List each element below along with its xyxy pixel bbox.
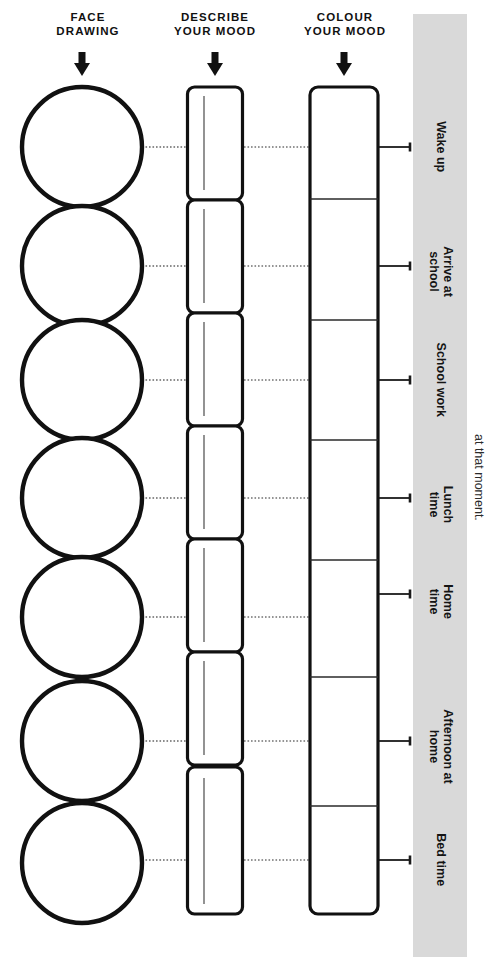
header-describe-your-mood: DESCRIBE YOUR MOOD [152,10,278,38]
colour-mood-column[interactable] [310,87,378,914]
face-circle-row-4[interactable] [22,438,142,558]
mood-box-row-3[interactable] [188,313,243,426]
worksheet-page: FACE DRAWING DESCRIBE YOUR MOOD COLOUR Y… [0,0,498,957]
face-circle-row-7[interactable] [22,803,142,923]
row-tick-marks [379,143,410,865]
arrow-colour-mood [336,52,352,76]
face-drawing-circles [22,87,142,923]
face-circle-row-2[interactable] [22,206,142,326]
worksheet-canvas [0,0,498,957]
note-at-that-moment: at that moment. [472,434,486,544]
arrow-describe-mood [207,52,223,76]
face-circle-row-6[interactable] [22,681,142,801]
row-label-bed-time: Bed time [433,805,447,915]
mood-box-row-6[interactable] [188,652,243,765]
face-circle-row-5[interactable] [22,557,142,677]
mood-box-row-1[interactable] [188,87,243,200]
describe-mood-boxes [188,87,243,914]
arrow-face-drawing [74,52,90,76]
connector-lines-mood-to-colour [244,147,309,860]
header-face-drawing: FACE DRAWING [8,10,168,38]
mood-box-row-4[interactable] [188,426,243,539]
face-circle-row-1[interactable] [22,87,142,207]
connector-lines-face-to-mood [142,147,186,860]
mood-box-row-7[interactable] [188,767,243,914]
row-label-home-time: Home time [427,547,454,657]
face-circle-row-3[interactable] [22,320,142,440]
mood-box-row-2[interactable] [188,200,243,313]
row-label-afternoon-at-home: Afternoon at home [427,692,454,802]
row-label-wake-up: Wake up [433,92,447,202]
header-colour-your-mood: COLOUR YOUR MOOD [285,10,405,38]
mood-box-row-5[interactable] [188,539,243,652]
row-label-arrive-at-school: Arrive at school [427,217,454,327]
row-label-school-work: School work [433,325,447,435]
row-label-lunch-time: Lunch time [427,450,454,560]
